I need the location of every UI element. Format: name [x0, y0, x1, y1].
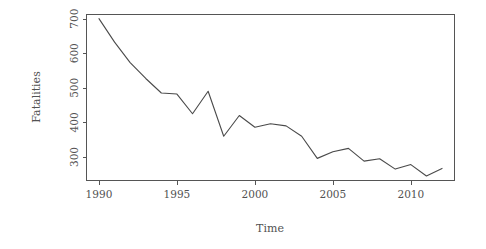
plot-frame [87, 15, 455, 181]
x-axis-title: Time [256, 222, 284, 235]
x-tick-label-2000: 2000 [242, 188, 269, 200]
y-tick-label-600: 600 [69, 43, 81, 63]
line-chart-plot: 300400500600700 19901995200020052010 Fat… [0, 0, 486, 249]
x-tick-label-2010: 2010 [397, 188, 424, 200]
y-axis-ticks [83, 20, 87, 158]
x-axis-tick-labels: 19901995200020052010 [86, 188, 425, 200]
y-tick-label-300: 300 [69, 147, 81, 167]
data-line-fatalities [99, 19, 442, 176]
y-axis-title: Fatalities [30, 71, 43, 123]
x-axis-ticks [100, 181, 412, 185]
x-tick-label-1995: 1995 [164, 188, 191, 200]
y-tick-label-700: 700 [69, 9, 81, 29]
x-tick-label-1990: 1990 [86, 188, 113, 200]
data-series-group [99, 19, 442, 176]
y-tick-label-500: 500 [69, 78, 81, 98]
y-tick-label-400: 400 [69, 112, 81, 132]
x-tick-label-2005: 2005 [320, 188, 347, 200]
chart-figure: 300400500600700 19901995200020052010 Fat… [0, 0, 486, 249]
y-axis-tick-labels: 300400500600700 [69, 9, 81, 167]
